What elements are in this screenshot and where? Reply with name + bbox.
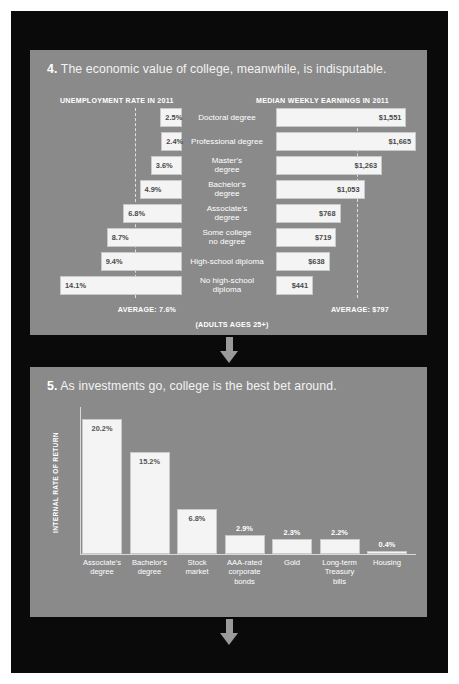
chart-unemployment-earnings: 2.5%$1,551Doctoral degree2.4%$1,665Profe… (30, 50, 427, 335)
chart-internal-rate-of-return: INTERNAL RATE OF RETURN 20.2%Associate's… (30, 367, 427, 617)
bar-unemployment: 9.4% (101, 252, 182, 271)
category-label: Associate'sdegree (182, 204, 272, 223)
bar-value-label: 2.9% (225, 524, 265, 533)
bar-unemployment: 3.6% (151, 156, 182, 175)
x-axis-category-label: AAA-ratedcorporatebonds (220, 558, 270, 586)
bar-earnings: $768 (276, 204, 341, 223)
bar-earnings: $1,551 (276, 108, 406, 127)
category-label: Master'sdegree (182, 156, 272, 175)
x-axis-category-label: Associate'sdegree (77, 558, 127, 577)
bar-internal-rate-of-return (272, 539, 312, 554)
category-label-line: Professional degree (182, 137, 272, 147)
x-axis-category-label-line: degree (125, 567, 175, 576)
bar-value-unemployment: 3.6% (156, 161, 173, 170)
x-axis-category-label-line: market (172, 567, 222, 576)
bar-value-earnings: $719 (315, 233, 331, 242)
arrow-head (220, 351, 238, 363)
bar-earnings: $719 (276, 228, 336, 247)
bar-value-unemployment: 2.5% (165, 113, 182, 122)
bar-value-earnings: $1,053 (337, 185, 360, 194)
x-axis-category-label-line: Gold (267, 558, 317, 567)
bar-internal-rate-of-return (367, 551, 407, 554)
bar-unemployment: 2.4% (161, 132, 182, 151)
category-label-line: degree (182, 165, 272, 175)
average-label-earnings: AVERAGE: $797 (300, 305, 420, 314)
bar-value-label: 15.2% (130, 457, 170, 466)
x-axis-category-label-line: corporate (220, 567, 270, 576)
bar-value-label: 2.2% (320, 528, 360, 537)
x-axis-category-label-line: degree (77, 567, 127, 576)
x-axis-category-label: Housing (362, 558, 412, 567)
bar-internal-rate-of-return (82, 419, 122, 554)
category-label-line: Associate's (182, 204, 272, 214)
category-label-line: degree (182, 213, 272, 223)
x-axis-category-label-line: Associate's (77, 558, 127, 567)
bar-earnings: $441 (276, 276, 313, 295)
arrow-stem (226, 619, 233, 634)
bar-value-earnings: $441 (292, 281, 308, 290)
category-label-line: Some college (182, 228, 272, 238)
x-axis-category-label-line: bonds (220, 577, 270, 586)
category-label-line: Doctoral degree (182, 113, 272, 123)
bar-earnings: $1,665 (276, 132, 416, 151)
arrow-down-icon (220, 337, 238, 363)
bar-value-label: 20.2% (82, 424, 122, 433)
bar-value-label: 6.8% (177, 514, 217, 523)
arrow-down-icon (220, 619, 238, 645)
bar-unemployment: 14.1% (60, 276, 182, 295)
bar-value-earnings: $768 (319, 209, 335, 218)
x-axis-category-label-line: AAA-rated (220, 558, 270, 567)
bar-value-unemployment: 4.9% (145, 185, 162, 194)
bar-earnings: $1,263 (276, 156, 382, 175)
bar-value-unemployment: 2.4% (166, 137, 183, 146)
bar-internal-rate-of-return (225, 535, 265, 554)
panel-economic-value: 4. The economic value of college, meanwh… (30, 50, 427, 335)
bar-value-earnings: $1,263 (355, 161, 378, 170)
bar-internal-rate-of-return (130, 452, 170, 554)
bar-value-earnings: $1,551 (379, 113, 402, 122)
bar-value-label: 2.3% (272, 528, 312, 537)
y-axis-line (80, 407, 81, 554)
category-label: Professional degree (182, 137, 272, 147)
bar-earnings: $1,053 (276, 180, 365, 199)
bar-value-unemployment: 9.4% (106, 257, 123, 266)
category-label: Bachelor'sdegree (182, 180, 272, 199)
bar-unemployment: 2.5% (160, 108, 182, 127)
x-axis-category-label-line: Long-term (315, 558, 365, 567)
bar-earnings: $638 (276, 252, 330, 271)
panel-investments: 5. As investments go, college is the bes… (30, 367, 427, 617)
x-axis-category-label-line: Bachelor's (125, 558, 175, 567)
x-axis-category-label: Gold (267, 558, 317, 567)
x-axis-category-label-line: Stock (172, 558, 222, 567)
bar-unemployment: 4.9% (140, 180, 182, 199)
category-label-line: Bachelor's (182, 180, 272, 190)
bar-value-unemployment: 6.8% (128, 209, 145, 218)
category-label: Some collegeno degree (182, 228, 272, 247)
bar-value-earnings: $638 (308, 257, 324, 266)
y-axis-label: INTERNAL RATE OF RETURN (52, 423, 59, 543)
x-axis-category-label-line: bills (315, 577, 365, 586)
infographic-page: 4. The economic value of college, meanwh… (0, 0, 459, 684)
footnote-adults-ages: (ADULTS AGES 25+) (177, 320, 287, 329)
category-label-line: degree (182, 189, 272, 199)
average-label-unemployment: AVERAGE: 7.6% (92, 305, 202, 314)
bar-value-unemployment: 14.1% (65, 281, 86, 290)
bar-value-earnings: $1,665 (388, 137, 411, 146)
category-label-line: diploma (182, 285, 272, 295)
bar-value-unemployment: 8.7% (112, 233, 129, 242)
category-label-line: No high-school (182, 276, 272, 286)
bar-unemployment: 6.8% (123, 204, 182, 223)
category-label-line: Master's (182, 156, 272, 166)
bar-unemployment: 8.7% (107, 228, 182, 247)
x-axis-category-label: Stockmarket (172, 558, 222, 577)
arrow-stem (226, 337, 233, 352)
category-label-line: High-school diploma (182, 257, 272, 267)
category-label: No high-schooldiploma (182, 276, 272, 295)
x-axis-category-label-line: Housing (362, 558, 412, 567)
x-axis-category-label-line: Treasury (315, 567, 365, 576)
x-axis-category-label: Bachelor'sdegree (125, 558, 175, 577)
category-label: Doctoral degree (182, 113, 272, 123)
x-axis-line (80, 554, 416, 555)
category-label-line: no degree (182, 237, 272, 247)
category-label: High-school diploma (182, 257, 272, 267)
